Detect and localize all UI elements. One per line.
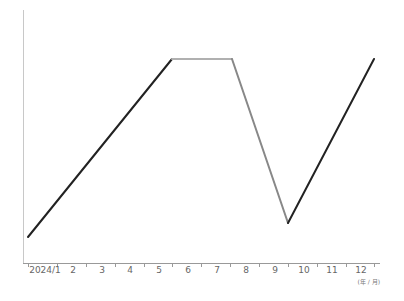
segment-rise-1 — [28, 59, 172, 237]
x-tick-label: 2024/1 — [29, 265, 61, 275]
chart-svg: 2024/1 2 3 4 5 6 7 8 9 10 11 12 (年 / 月) — [0, 0, 404, 301]
x-tick-label: 10 — [298, 265, 310, 275]
x-tick-label: 4 — [127, 265, 133, 275]
x-tick-label: 9 — [272, 265, 278, 275]
x-tick-label: 11 — [326, 265, 337, 275]
line-chart: 2024/1 2 3 4 5 6 7 8 9 10 11 12 (年 / 月) — [0, 0, 404, 301]
segment-rise-2 — [288, 59, 374, 223]
x-tick-label: 7 — [214, 265, 220, 275]
x-tick-label: 6 — [185, 265, 191, 275]
x-axis-labels: 2024/1 2 3 4 5 6 7 8 9 10 11 12 (年 / 月) — [29, 265, 380, 286]
x-tick-label: 3 — [99, 265, 105, 275]
x-tick-label: 2 — [70, 265, 76, 275]
segment-decline — [232, 59, 288, 223]
data-series-line — [28, 59, 374, 237]
x-tick-label: 12 — [355, 265, 366, 275]
x-tick-label: 8 — [243, 265, 249, 275]
x-axis-unit-label: (年 / 月) — [357, 278, 380, 286]
x-tick-label: 5 — [156, 265, 162, 275]
